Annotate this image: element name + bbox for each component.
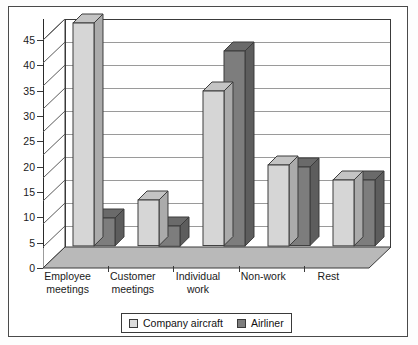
bar-side-face [224,82,233,246]
y-axis-tick-label: 35 [13,86,35,96]
y-axis-tick [37,167,43,168]
y-axis-tick-label: 25 [13,136,35,146]
chart-legend: Company aircraft Airliner [121,313,292,333]
y-axis-tick-label: 45 [13,35,35,45]
chart-frame: 454035302520151050 Employee meetingsCust… [8,6,408,337]
y-axis-tick [37,116,43,117]
y-axis-tick [37,40,43,41]
legend-label: Company aircraft [143,317,223,329]
bar-side-face [289,156,298,246]
chart-figure: 454035302520151050 Employee meetingsCust… [0,0,418,345]
y-axis-tick [37,141,43,142]
bar-side-face [375,171,384,246]
x-axis-category-label: Customer meetings [100,270,165,295]
legend-item-company-aircraft: Company aircraft [129,317,223,329]
bar-company-aircraft [73,25,94,248]
y-axis-tick [37,65,43,66]
y-axis-tick-label: 5 [13,238,35,248]
bar-side-face [310,158,319,246]
bar-front-face [333,180,354,246]
y-axis-tick [37,268,43,269]
y-axis-line [43,19,44,248]
legend-swatch-icon [237,319,246,328]
bar-front-face [138,200,159,246]
x-axis-category-label: Employee meetings [35,270,100,295]
y-axis-tick-label: 10 [13,212,35,222]
bar-company-aircraft [268,167,289,248]
y-axis-tick-label: 15 [13,187,35,197]
x-axis-category-label: Individual work [165,270,230,295]
bar-front-face [203,91,224,246]
legend-item-airliner: Airliner [237,317,284,329]
y-axis-tick-label: 40 [13,60,35,70]
y-axis-tick [37,91,43,92]
y-axis-tick-label: 30 [13,111,35,121]
legend-label: Airliner [251,317,284,329]
y-axis-tick [37,243,43,244]
bar-company-aircraft [138,202,159,248]
bar-front-face [268,165,289,246]
bar-company-aircraft [203,93,224,248]
bar-front-face [73,23,94,246]
legend-swatch-icon [129,319,138,328]
plot-area: 454035302520151050 [43,19,391,267]
bar-side-face [245,42,254,246]
bar-series-container [65,19,391,248]
y-axis-tick-label: 20 [13,162,35,172]
y-axis-tick [37,192,43,193]
x-axis-category-label: Rest [296,270,361,283]
bar-company-aircraft [333,182,354,248]
bar-side-face [94,14,103,246]
y-axis-tick [37,217,43,218]
x-axis-category-label: Non-work [231,270,296,283]
y-axis-tick-label: 0 [13,263,35,273]
bar-side-face [354,171,363,246]
